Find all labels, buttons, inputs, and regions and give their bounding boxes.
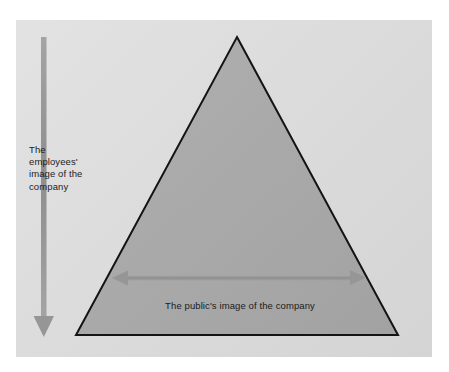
employees-image-label: The employees' image of the company (29, 144, 103, 193)
public-image-label: The public's image of the company (120, 300, 360, 312)
employees-image-label-line-1: The (29, 144, 103, 156)
employees-image-label-line-3: image of the (29, 168, 103, 180)
pyramid-triangle (76, 37, 398, 335)
employees-image-label-line-2: employees' (29, 156, 103, 168)
diagram-canvas: The employees' image of the company The … (0, 0, 449, 372)
employees-image-label-line-4: company (29, 181, 103, 193)
